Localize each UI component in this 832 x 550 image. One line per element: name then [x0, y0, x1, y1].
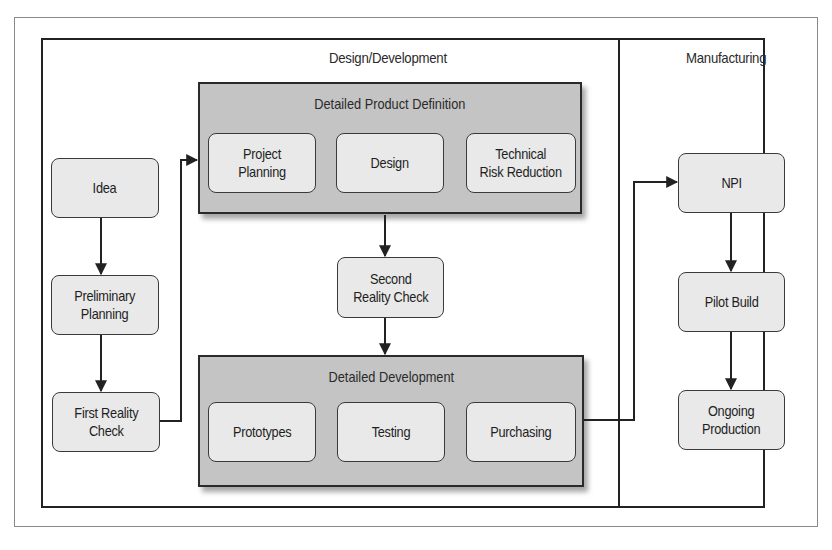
connector-layer [0, 0, 832, 550]
arrow-first-check-to-product-definition [160, 160, 197, 421]
arrow-development-to-npi [584, 182, 677, 420]
